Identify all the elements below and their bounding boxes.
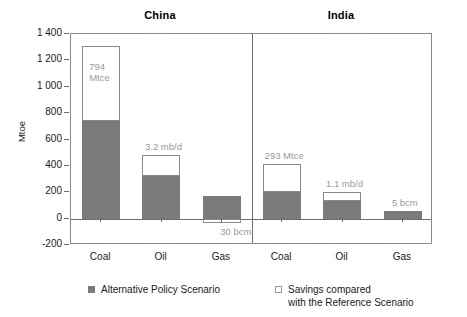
x-tick-mark: [342, 218, 343, 222]
x-tick-mark: [402, 218, 403, 222]
y-tick-label: 200: [18, 186, 62, 196]
bar-annotation: 1.1 mb/d: [313, 178, 375, 189]
bar-annotation: 3.2 mb/d: [132, 141, 194, 152]
zero-baseline: [71, 219, 431, 220]
y-tick-label: 800: [18, 107, 62, 117]
legend-label: Savings compared with the Reference Scen…: [288, 284, 414, 309]
y-tick-label: -200: [18, 239, 62, 249]
bar-segment-savings: [82, 46, 120, 121]
bar-segment-savings: [142, 155, 180, 176]
bar-annotation: 5 bcm: [374, 197, 436, 208]
y-tick-label: 0: [18, 213, 62, 223]
group-header-india: India: [250, 9, 432, 21]
x-category-label-coal-india: Coal: [251, 251, 311, 262]
bar-annotation: 30 bcm: [205, 226, 267, 237]
y-tick-6: 200: [0, 186, 62, 196]
y-tick-mark: [64, 218, 69, 219]
y-tick-mark: [64, 86, 69, 87]
chart-legend: Alternative Policy Scenario Savings comp…: [0, 281, 467, 317]
legend-swatch-filled-icon: [88, 286, 95, 293]
y-tick-label: 1 400: [18, 28, 62, 38]
x-tick-mark: [281, 218, 282, 222]
y-tick-mark: [64, 59, 69, 60]
x-tick-mark: [221, 218, 222, 222]
y-tick-mark: [64, 33, 69, 34]
y-tick-mark: [64, 165, 69, 166]
x-tick-mark: [100, 218, 101, 222]
bar-segment-base: [323, 201, 361, 219]
bar-segment-base: [384, 211, 422, 219]
y-tick-mark: [64, 191, 69, 192]
y-tick-5: 400: [0, 160, 62, 170]
bar-segment-base: [203, 196, 241, 219]
group-header-china: China: [70, 9, 250, 21]
y-tick-4: 600: [0, 134, 62, 144]
y-tick-7: 0: [0, 213, 62, 223]
y-tick-2: 1 000: [0, 81, 62, 91]
bar-annotation: 794 Mtce: [89, 61, 110, 83]
y-tick-label: 600: [18, 134, 62, 144]
x-category-label-gas-china: Gas: [191, 251, 251, 262]
bar-segment-base: [142, 176, 180, 219]
x-tick-mark: [161, 218, 162, 222]
x-category-label-gas-india: Gas: [372, 251, 432, 262]
stacked-bar-chart: China India Mtoe 1 4001 2001 00080060040…: [0, 0, 467, 317]
bar-segment-savings: [263, 164, 301, 192]
bar-segment-base: [82, 121, 120, 218]
y-tick-0: 1 400: [0, 28, 62, 38]
plot-area: 794 Mtce3.2 mb/d30 bcm293 Mtce1.1 mb/d5 …: [70, 33, 432, 244]
y-tick-label: 1 000: [18, 81, 62, 91]
y-tick-mark: [64, 139, 69, 140]
legend-swatch-outlined-icon: [275, 286, 282, 293]
y-tick-3: 800: [0, 107, 62, 117]
x-category-label-oil-india: Oil: [312, 251, 372, 262]
legend-item-alternative-policy-scenario: Alternative Policy Scenario: [88, 284, 220, 297]
legend-label: Alternative Policy Scenario: [101, 284, 220, 297]
bar-annotation: 293 Mtce: [253, 150, 315, 161]
y-tick-label: 400: [18, 160, 62, 170]
legend-item-savings-compared: Savings compared with the Reference Scen…: [275, 284, 414, 309]
group-divider-line: [252, 34, 253, 243]
x-category-label-oil-china: Oil: [131, 251, 191, 262]
bar-segment-base: [263, 192, 301, 218]
bar-segment-savings-negative: [203, 219, 241, 223]
y-tick-8: -200: [0, 239, 62, 249]
bar-segment-savings: [323, 192, 361, 201]
y-tick-mark: [64, 112, 69, 113]
x-category-label-coal-china: Coal: [70, 251, 130, 262]
y-tick-1: 1 200: [0, 54, 62, 64]
y-tick-mark: [64, 244, 69, 245]
y-tick-label: 1 200: [18, 54, 62, 64]
